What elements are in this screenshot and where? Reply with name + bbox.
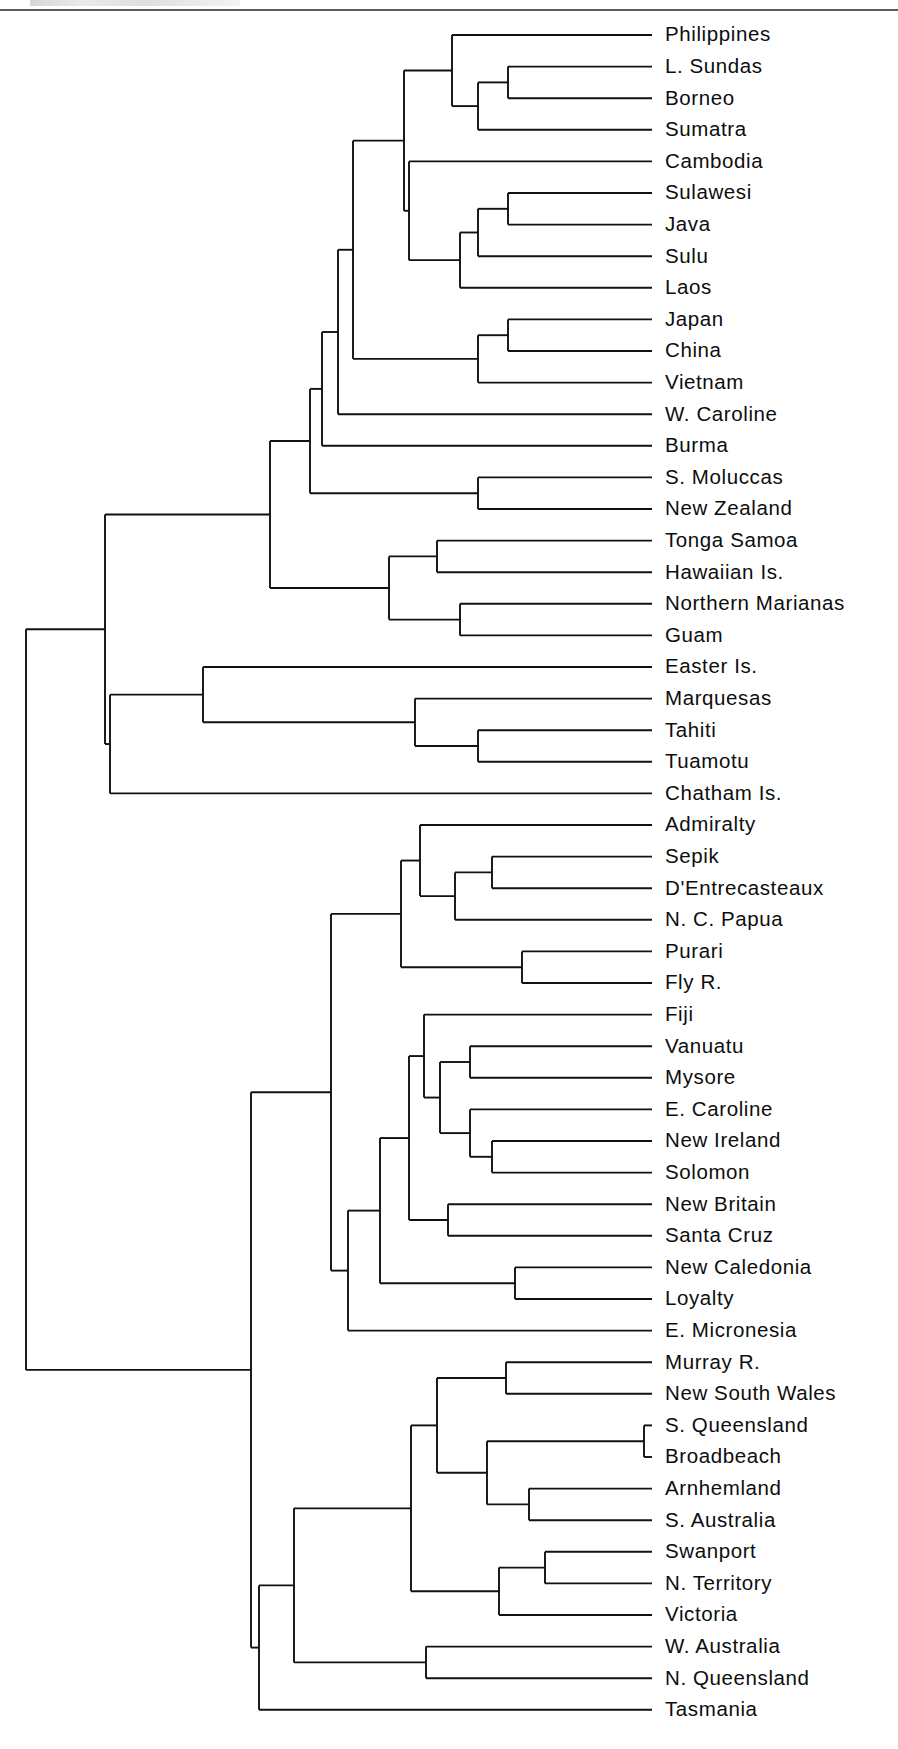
leaf-label-admiralty: Admiralty bbox=[665, 812, 756, 835]
leaf-label-broadbeach: Broadbeach bbox=[665, 1444, 782, 1467]
leaf-label-new-britain: New Britain bbox=[665, 1192, 776, 1215]
leaf-label-purari: Purari bbox=[665, 939, 723, 962]
leaf-label-w-caroline: W. Caroline bbox=[665, 402, 778, 425]
leaf-label-cambodia: Cambodia bbox=[665, 149, 763, 172]
leaf-label-borneo: Borneo bbox=[665, 86, 735, 109]
leaf-label-easter-is: Easter Is. bbox=[665, 654, 758, 677]
leaf-label-burma: Burma bbox=[665, 433, 728, 456]
leaf-label-sulu: Sulu bbox=[665, 244, 708, 267]
leaf-label-santa-cruz: Santa Cruz bbox=[665, 1223, 774, 1246]
leaf-label-s-moluccas: S. Moluccas bbox=[665, 465, 783, 488]
leaf-label-new-ireland: New Ireland bbox=[665, 1128, 781, 1151]
leaf-label-n-territory: N. Territory bbox=[665, 1571, 772, 1594]
leaf-label-e-caroline: E. Caroline bbox=[665, 1097, 773, 1120]
leaf-label-vietnam: Vietnam bbox=[665, 370, 744, 393]
leaf-label-solomon: Solomon bbox=[665, 1160, 750, 1183]
leaf-label-d-entrecasteaux: D'Entrecasteaux bbox=[665, 876, 824, 899]
leaf-labels-group: PhilippinesL. SundasBorneoSumatraCambodi… bbox=[665, 22, 845, 1720]
leaf-label-arnhemland: Arnhemland bbox=[665, 1476, 782, 1499]
leaf-label-sulawesi: Sulawesi bbox=[665, 180, 752, 203]
leaf-label-s-queensland: S. Queensland bbox=[665, 1413, 808, 1436]
leaf-label-sepik: Sepik bbox=[665, 844, 719, 867]
leaf-label-s-australia: S. Australia bbox=[665, 1508, 776, 1531]
leaf-label-sumatra: Sumatra bbox=[665, 117, 747, 140]
leaf-label-tahiti: Tahiti bbox=[665, 718, 716, 741]
dendrogram-svg: PhilippinesL. SundasBorneoSumatraCambodi… bbox=[0, 0, 898, 1749]
leaf-label-loyalty: Loyalty bbox=[665, 1286, 734, 1309]
leaf-label-n-c-papua: N. C. Papua bbox=[665, 907, 783, 930]
leaf-label-tasmania: Tasmania bbox=[665, 1697, 758, 1720]
leaf-label-swanport: Swanport bbox=[665, 1539, 756, 1562]
leaf-label-victoria: Victoria bbox=[665, 1602, 738, 1625]
branch-lines-group bbox=[26, 35, 652, 1710]
leaf-label-marquesas: Marquesas bbox=[665, 686, 772, 709]
leaf-label-new-south-wales: New South Wales bbox=[665, 1381, 836, 1404]
leaf-label-hawaiian-is: Hawaiian Is. bbox=[665, 560, 784, 583]
leaf-label-java: Java bbox=[665, 212, 711, 235]
leaf-label-tuamotu: Tuamotu bbox=[665, 749, 749, 772]
leaf-label-e-micronesia: E. Micronesia bbox=[665, 1318, 797, 1341]
leaf-label-vanuatu: Vanuatu bbox=[665, 1034, 744, 1057]
leaf-label-new-zealand: New Zealand bbox=[665, 496, 792, 519]
leaf-label-laos: Laos bbox=[665, 275, 712, 298]
leaf-label-fly-r: Fly R. bbox=[665, 970, 722, 993]
leaf-label-guam: Guam bbox=[665, 623, 723, 646]
header-rule bbox=[0, 9, 898, 11]
leaf-label-japan: Japan bbox=[665, 307, 724, 330]
leaf-label-chatham-is: Chatham Is. bbox=[665, 781, 782, 804]
leaf-label-mysore: Mysore bbox=[665, 1065, 736, 1088]
dendrogram-figure: PhilippinesL. SundasBorneoSumatraCambodi… bbox=[0, 0, 898, 1749]
leaf-label-new-caledonia: New Caledonia bbox=[665, 1255, 812, 1278]
leaf-label-northern-marianas: Northern Marianas bbox=[665, 591, 845, 614]
leaf-label-china: China bbox=[665, 338, 722, 361]
page-edge-artifact bbox=[30, 0, 240, 6]
leaf-label-murray-r: Murray R. bbox=[665, 1350, 760, 1373]
leaf-label-fiji: Fiji bbox=[665, 1002, 694, 1025]
leaf-label-w-australia: W. Australia bbox=[665, 1634, 780, 1657]
leaf-label-tonga-samoa: Tonga Samoa bbox=[665, 528, 798, 551]
leaf-label-l-sundas: L. Sundas bbox=[665, 54, 763, 77]
leaf-label-n-queensland: N. Queensland bbox=[665, 1666, 810, 1689]
leaf-label-philippines: Philippines bbox=[665, 22, 771, 45]
